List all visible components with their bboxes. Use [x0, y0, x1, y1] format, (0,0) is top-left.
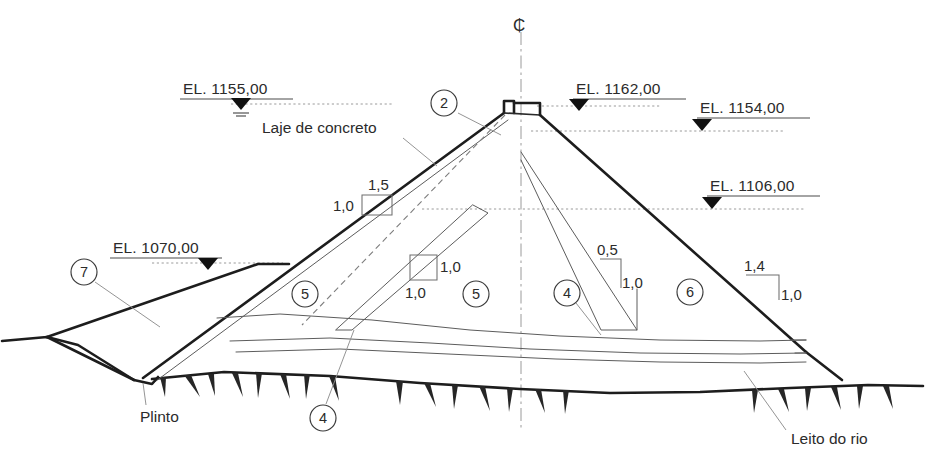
zone-callout-7-label: 7 — [80, 264, 88, 280]
slope-indicator-downstream: 1,4 1,0 — [744, 257, 802, 303]
annotation-plinto: Plinto — [140, 383, 179, 425]
slope-downstream-vertical: 1,0 — [781, 286, 802, 303]
elevation-label-1154: EL. 1154,00 — [700, 99, 785, 116]
zone-callout-5-mid[interactable]: 5 — [463, 281, 489, 307]
slope-indicator-drain: 0,5 1,0 — [597, 241, 643, 291]
slope-downstream-horizontal: 1,4 — [744, 257, 765, 274]
label-leito-do-rio: Leito do rio — [791, 430, 868, 447]
label-plinto: Plinto — [140, 408, 179, 425]
zone-callout-6[interactable]: 6 — [677, 279, 703, 305]
annotation-laje-de-concreto: Laje de concreto — [262, 119, 437, 166]
dam-crest-parapet — [504, 101, 540, 115]
annotation-leito-do-rio: Leito do rio — [744, 371, 868, 447]
inner-drain-chimney — [521, 152, 637, 330]
elevation-marker-1154: EL. 1154,00 — [692, 99, 810, 131]
zone-callout-2-label: 2 — [440, 95, 448, 111]
zone-callout-4-mid[interactable]: 4 — [554, 280, 601, 335]
slope-core-horizontal: 1,0 — [405, 284, 426, 301]
inner-core-wall — [336, 205, 488, 330]
slope-upstream-vertical: 1,0 — [333, 197, 354, 214]
dam-cross-section-diagram: ₵ — [0, 0, 925, 457]
slope-indicator-core: 1,0 1,0 — [405, 255, 461, 301]
slope-core-vertical: 1,0 — [440, 258, 461, 275]
elevation-marker-1155: EL. 1155,00 — [180, 80, 293, 116]
zone-callout-2[interactable]: 2 — [431, 90, 501, 135]
zone-callout-5-left-label: 5 — [301, 286, 309, 302]
elevation-marker-1070: EL. 1070,00 — [110, 239, 222, 270]
zone-callout-4-bottom-label: 4 — [319, 410, 327, 426]
centerline-label: ₵ — [513, 16, 525, 35]
zone-callout-7[interactable]: 7 — [71, 259, 160, 327]
foundation-hatching — [160, 373, 893, 414]
slope-drain-vertical: 1,0 — [622, 274, 643, 291]
drainage-blanket — [217, 314, 806, 363]
slope-indicator-upstream: 1,5 1,0 — [333, 176, 392, 215]
elevation-label-1162: EL. 1162,00 — [576, 80, 661, 97]
zone-callout-6-label: 6 — [686, 284, 694, 300]
elevation-label-1106: EL. 1106,00 — [710, 177, 795, 194]
elevation-level-lines — [152, 104, 806, 263]
slope-upstream-horizontal: 1,5 — [368, 176, 389, 193]
zone-callout-5-left[interactable]: 5 — [292, 281, 318, 307]
elevation-label-1070: EL. 1070,00 — [113, 239, 199, 256]
elevation-marker-1106: EL. 1106,00 — [702, 177, 820, 209]
zone-callout-4-mid-label: 4 — [563, 285, 571, 301]
zone-callout-5-mid-label: 5 — [472, 286, 480, 302]
slope-drain-horizontal: 0,5 — [597, 241, 618, 258]
label-laje-de-concreto: Laje de concreto — [262, 119, 377, 136]
elevation-label-1155: EL. 1155,00 — [183, 80, 268, 97]
